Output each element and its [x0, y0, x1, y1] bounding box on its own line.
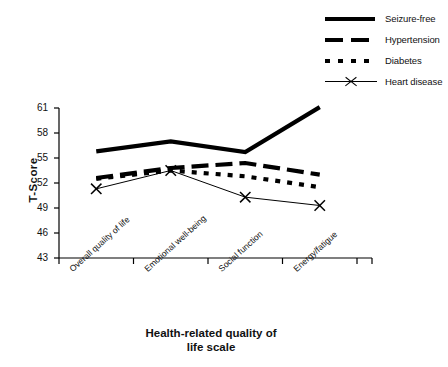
series-line-heart-disease	[96, 171, 320, 206]
y-axis-tick-label: 61	[28, 103, 48, 113]
x-axis-title-line1: Health-related quality of	[86, 326, 336, 340]
plot-area	[0, 0, 448, 367]
y-axis-tick-label: 43	[28, 253, 48, 263]
series-line-seizure-free	[96, 107, 320, 152]
chart-figure: Seizure-free Hypertension Diabetes Heart…	[0, 0, 448, 367]
y-axis-title: T-Score	[27, 140, 39, 220]
y-axis-tick-label: 46	[28, 228, 48, 238]
series-line-hypertension	[96, 163, 320, 178]
x-axis-title-line2: life scale	[86, 340, 336, 354]
y-axis-tick-label: 58	[28, 128, 48, 138]
x-axis-title: Health-related quality of life scale	[86, 326, 336, 354]
x-marker	[91, 184, 101, 194]
